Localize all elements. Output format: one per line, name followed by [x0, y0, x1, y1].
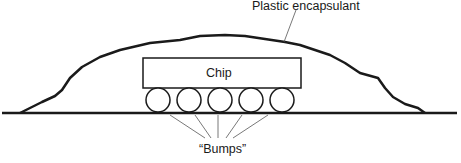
- bumps-group: [146, 88, 294, 112]
- bump: [208, 88, 232, 112]
- encapsulant-label: Plastic encapsulant: [252, 0, 360, 13]
- chip-label: Chip: [206, 66, 232, 80]
- bump: [177, 88, 201, 112]
- bumps-label: “Bumps”: [199, 142, 246, 156]
- flip-chip-diagram: [0, 0, 461, 163]
- bump: [146, 88, 170, 112]
- bumps-leaders: [170, 115, 268, 138]
- encapsulant-leader: [284, 10, 296, 42]
- bump: [270, 88, 294, 112]
- bump: [239, 88, 263, 112]
